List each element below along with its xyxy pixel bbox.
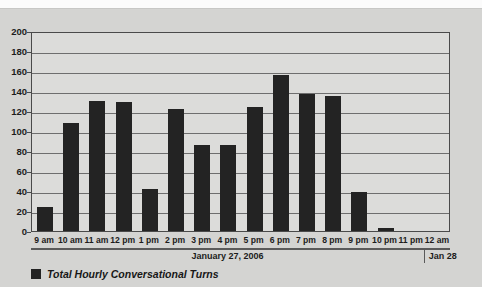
bar [247, 107, 263, 231]
date-band: January 27, 2006Jan 28 [31, 248, 450, 264]
bar [194, 145, 210, 231]
bar [116, 102, 132, 231]
bar-slot [346, 33, 372, 231]
legend-item-label: Total Hourly Conversational Turns [47, 268, 219, 280]
x-axis-tick-label: 4 pm [214, 234, 240, 246]
x-axis-tick-label: 12 am [424, 234, 450, 246]
bar [378, 228, 394, 231]
y-axis-tick-label: 40 [0, 187, 27, 196]
bar-slot [268, 33, 294, 231]
bar-slot [137, 33, 163, 231]
bar [63, 123, 79, 231]
bar-slot [32, 33, 58, 231]
y-axis-tick-label: 120 [0, 107, 27, 116]
x-axis-labels: 9 am10 am11 am12 pm1 pm2 pm3 pm4 pm5 pm6… [31, 234, 450, 247]
date-band-label-primary: January 27, 2006 [31, 250, 424, 262]
plot-area [31, 32, 450, 232]
legend-swatch-icon [31, 269, 41, 279]
y-axis-tick-label: 180 [0, 47, 27, 56]
bar-slot [372, 33, 398, 231]
bar-slot [425, 33, 451, 231]
bar-slot [111, 33, 137, 231]
bar-slot [399, 33, 425, 231]
x-axis-tick-label: 5 pm [241, 234, 267, 246]
bar-slot [242, 33, 268, 231]
bar-slot [320, 33, 346, 231]
chart-page: 200180160140120100806040200 9 am10 am11 … [0, 0, 482, 287]
x-axis-tick-label: 12 pm [110, 234, 136, 246]
x-axis-tick-label: 3 pm [188, 234, 214, 246]
x-axis-tick-label: 7 pm [293, 234, 319, 246]
bar [273, 75, 289, 231]
x-axis-tick-label: 2 pm [162, 234, 188, 246]
x-axis-tick-label: 10 pm [371, 234, 397, 246]
y-axis-tick-label: 100 [0, 127, 27, 136]
bar [37, 207, 53, 231]
y-axis-tick-label: 20 [0, 207, 27, 216]
bar [220, 145, 236, 231]
bar [325, 96, 341, 231]
bar-slot [163, 33, 189, 231]
y-axis-tick-label: 60 [0, 167, 27, 176]
y-axis-tick-label: 80 [0, 147, 27, 156]
bar-series [32, 33, 449, 231]
x-axis-tick-label: 6 pm [267, 234, 293, 246]
x-axis-tick-label: 10 am [57, 234, 83, 246]
y-axis-tick-label: 140 [0, 87, 27, 96]
bar [142, 189, 158, 231]
bar-slot [58, 33, 84, 231]
page-top-rule [0, 8, 482, 9]
bar-slot [189, 33, 215, 231]
y-axis-tick-label: 0 [0, 227, 27, 236]
x-axis-tick-label: 11 pm [398, 234, 424, 246]
x-axis-tick-label: 11 am [83, 234, 109, 246]
y-axis-tick-label: 200 [0, 27, 27, 36]
bar-slot [294, 33, 320, 231]
bar-slot [84, 33, 110, 231]
x-axis-tick-label: 9 am [31, 234, 57, 246]
y-axis-tick-label: 160 [0, 67, 27, 76]
y-axis-tick-mark [27, 232, 31, 233]
x-axis-tick-label: 1 pm [136, 234, 162, 246]
bar [89, 101, 105, 231]
x-axis-tick-label: 8 pm [319, 234, 345, 246]
bar [351, 192, 367, 231]
date-band-separator [424, 248, 426, 263]
bar [168, 109, 184, 231]
bar-slot [215, 33, 241, 231]
date-band-label-secondary: Jan 28 [429, 250, 457, 262]
x-axis-tick-label: 9 pm [345, 234, 371, 246]
bar [299, 94, 315, 231]
chart-legend: Total Hourly Conversational Turns [31, 268, 219, 280]
